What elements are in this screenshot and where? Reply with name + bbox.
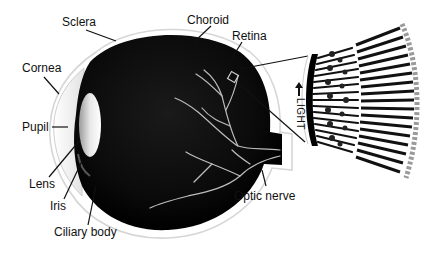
label-pupil: Pupil bbox=[22, 121, 49, 133]
label-cornea: Cornea bbox=[22, 62, 61, 74]
lens bbox=[79, 93, 101, 157]
label-iris: Iris bbox=[50, 200, 66, 212]
label-optic-nerve: Optic nerve bbox=[234, 190, 295, 202]
retina-inset bbox=[295, 24, 417, 178]
label-lens: Lens bbox=[29, 178, 55, 190]
label-ciliary-body: Ciliary body bbox=[54, 226, 117, 238]
eye-illustration bbox=[0, 0, 439, 254]
eye-diagram: Sclera Choroid Retina Cornea Pupil Lens … bbox=[0, 0, 439, 254]
label-retina: Retina bbox=[232, 30, 267, 42]
label-sclera: Sclera bbox=[62, 16, 96, 28]
label-choroid: Choroid bbox=[187, 14, 229, 26]
label-light: LIGHT bbox=[295, 98, 306, 130]
